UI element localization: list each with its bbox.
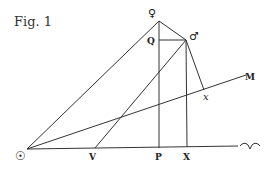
x-label: X (183, 152, 190, 162)
v-label: V (88, 152, 97, 162)
m-label: M (245, 72, 255, 82)
line-venus-mars (159, 21, 186, 40)
line-sun-m (27, 75, 246, 149)
p-label: P (155, 152, 162, 162)
line-mars-small-x (186, 40, 204, 90)
baseline-sun-aries (27, 146, 238, 149)
venus-label: ♀ (148, 7, 156, 20)
aries-icon (240, 143, 260, 149)
x-small-label: x (203, 91, 209, 102)
mars-label: ♂ (189, 30, 199, 43)
q-label: Q (147, 36, 155, 46)
figure-caption: Fig. 1 (14, 14, 52, 29)
line-mars-v (95, 40, 186, 148)
line-mars-x-perp (186, 40, 187, 147)
diagram-figure: Fig. 1 ☉ ♀ ♂ Q M x V P X (0, 0, 274, 169)
sun-label: ☉ (15, 149, 26, 163)
line-sun-venus (27, 21, 159, 149)
